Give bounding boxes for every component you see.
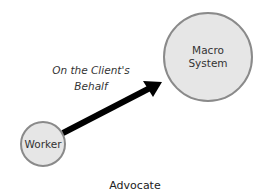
edge-label: On the Client's Behalf xyxy=(52,62,130,94)
edge-label-line2: Behalf xyxy=(52,78,130,94)
worker-label-text: Worker xyxy=(25,138,62,150)
macro-system-label-line2: System xyxy=(188,57,227,70)
macro-system-label-line1: Macro xyxy=(188,44,227,57)
edge-label-line1: On the Client's xyxy=(52,62,130,78)
diagram-caption: Advocate xyxy=(109,179,160,192)
macro-system-label: Macro System xyxy=(188,44,227,70)
diagram-canvas xyxy=(0,0,267,195)
worker-label: Worker xyxy=(25,138,62,151)
